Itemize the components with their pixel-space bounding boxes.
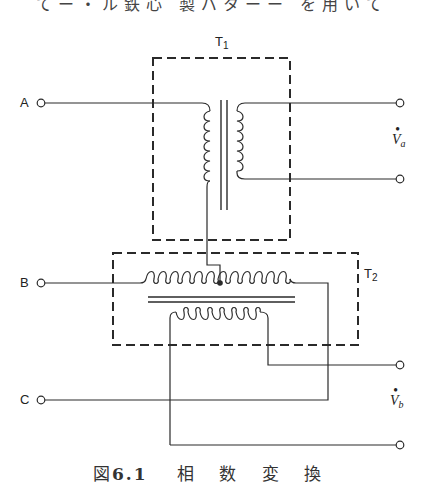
terminal-va-bottom <box>396 175 404 183</box>
t2-label: T2 <box>364 266 378 281</box>
t2-secondary-coil <box>176 308 260 320</box>
terminal-b-node <box>37 279 45 287</box>
output-vb-label: • Vb <box>390 393 404 409</box>
figure-caption: 図6.1 相 数 変 換 <box>0 460 424 485</box>
terminal-vb-bottom <box>396 441 404 449</box>
t1-secondary-coil <box>237 111 243 171</box>
t1-primary-coil <box>204 111 210 181</box>
t1-label: T1 <box>215 34 229 49</box>
terminal-va-top <box>396 99 404 107</box>
caption-prefix: 図 <box>93 464 112 484</box>
terminal-a-label: A <box>20 95 29 110</box>
terminal-c-label: C <box>20 392 29 407</box>
caption-number: 6.1 <box>112 464 148 484</box>
terminal-a-node <box>37 99 45 107</box>
wire-t1-to-t2-tap <box>207 181 220 283</box>
phase-conversion-circuit <box>0 0 424 491</box>
terminal-b-label: B <box>20 275 29 290</box>
terminal-vb-top <box>396 361 404 369</box>
output-va-label: • Va <box>392 132 406 148</box>
terminal-c-node <box>37 396 45 404</box>
t2-center-tap <box>218 281 222 285</box>
t2-enclosure <box>113 253 358 345</box>
